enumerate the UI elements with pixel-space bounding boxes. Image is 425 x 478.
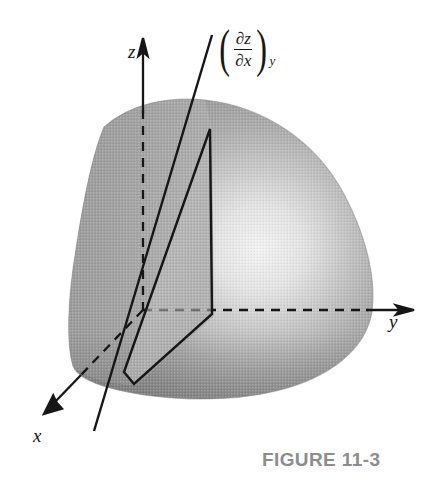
x-axis-line [54, 375, 81, 403]
close-paren: ) [257, 28, 268, 71]
y-axis-arrowhead [396, 305, 414, 314]
held-constant-subscript: y [270, 53, 276, 69]
fraction-numerator: ∂z [235, 29, 252, 48]
partial-fraction: ∂z ∂x [233, 29, 253, 70]
open-paren: ( [219, 28, 230, 71]
figure-container: z y x ( ∂z ∂x ) y FIGURE 11-3 [0, 0, 425, 478]
fraction-bar [234, 49, 252, 50]
x-axis-label: x [33, 426, 41, 445]
z-axis-label: z [128, 42, 135, 61]
fraction-denominator: ∂x [234, 51, 252, 70]
figure-caption: FIGURE 11-3 [262, 449, 380, 471]
curved-surface [55, 90, 390, 420]
surface-halftone-texture [55, 90, 385, 420]
partial-derivative-annotation: ( ∂z ∂x ) y [216, 28, 275, 71]
figure-graphic [0, 0, 425, 478]
y-axis-label: y [389, 312, 397, 331]
z-axis-arrowhead [138, 38, 147, 56]
